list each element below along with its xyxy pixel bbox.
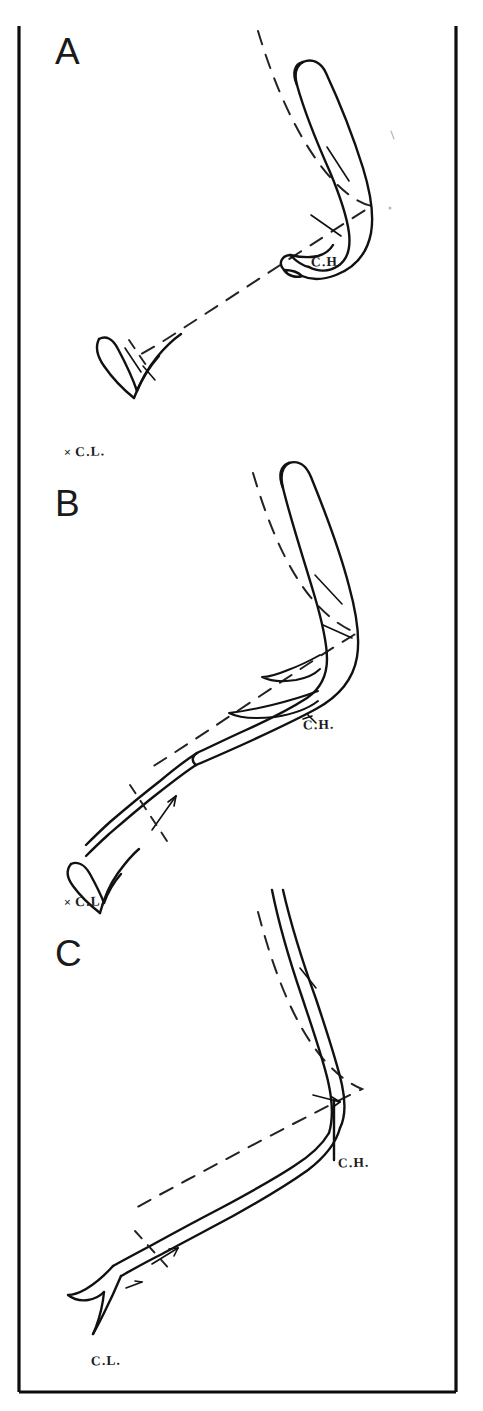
panel-letter-b: B (55, 485, 80, 522)
panel-b-inner-fold-upper (262, 655, 320, 681)
panel-c-drawing (68, 890, 362, 1334)
panel-a-distal-tip (284, 270, 302, 277)
panel-a-cl-xmark: × (64, 445, 73, 459)
panel-letter-c: C (55, 935, 82, 972)
figure-root: A C.H. ×C.L. B C.H. ×C.L. C C.H. C.L. (0, 0, 483, 1411)
panel-b-limb-outer (197, 463, 327, 753)
panel-a-distal-hook (281, 255, 290, 270)
panel-b-label-cl: ×C.L. (64, 894, 105, 909)
panel-c-arrow-lower-h1 (169, 1248, 178, 1249)
panel-b-label-ch: C.H. (303, 718, 335, 732)
panel-b-hook-arm (100, 849, 139, 913)
panel-c-arrow-distal-h (135, 1281, 142, 1282)
panel-c-label-ch: C.H. (338, 1156, 370, 1170)
panel-a-limb-inner (302, 60, 372, 278)
panel-a-drawing (97, 31, 394, 398)
panel-a-reference-line (133, 31, 372, 358)
panel-a-hook-dash (129, 340, 150, 371)
panel-a-cl-text: C.L. (75, 443, 105, 459)
panel-a-limb-outer (296, 62, 350, 271)
panel-a-label-ch: C.H. (311, 255, 343, 269)
panel-b-cl-text: C.L. (75, 893, 105, 909)
panel-b-drawing (68, 462, 358, 913)
panel-b-shaft-inner (86, 765, 196, 856)
panel-c-reference-line (134, 912, 362, 1209)
panel-letter-a: A (55, 33, 80, 70)
panel-c-label-cl: C.L. (91, 1354, 121, 1368)
panel-b-hook-arm-inner (104, 874, 121, 903)
panel-c-limb-outer (272, 890, 332, 1133)
panel-c-arrow-mid (313, 1095, 340, 1102)
panel-b-shaft-outer (86, 753, 197, 845)
figure-canvas (0, 0, 483, 1411)
panel-a-fleck-1 (391, 131, 394, 139)
panel-c-arrow-distal (126, 1282, 142, 1288)
panel-b-tick-mid (323, 625, 352, 638)
panel-c-bend-outer (113, 1133, 329, 1266)
panel-a-hook-arm (134, 334, 181, 398)
figure-frame (19, 26, 456, 1392)
panel-c-foot-outer (68, 1266, 113, 1300)
panel-a-fleck-2 (389, 207, 392, 210)
panel-a-label-cl: ×C.L. (64, 444, 105, 459)
panel-a-hook-arm-inner (137, 356, 159, 391)
panel-b-tick-upper (315, 575, 342, 604)
panel-b-cl-xmark: × (64, 895, 73, 909)
panel-a-tick-lower (311, 215, 341, 236)
panel-c-tick-upper (300, 968, 316, 988)
